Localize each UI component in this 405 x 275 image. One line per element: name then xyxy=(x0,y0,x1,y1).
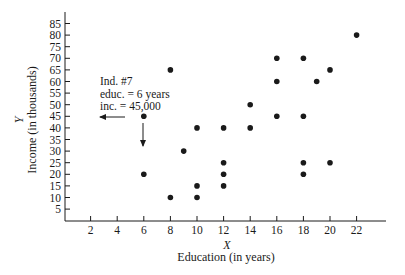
y-tick-label: 15 xyxy=(50,180,62,192)
y-tick-label: 25 xyxy=(50,157,62,169)
data-point xyxy=(274,114,280,120)
x-axis-title: Education (in years) xyxy=(177,250,274,264)
y-tick-label: 30 xyxy=(50,145,62,157)
data-point xyxy=(221,160,227,166)
y-variable-label: Y xyxy=(12,115,26,123)
x-tick-label: 18 xyxy=(298,224,310,236)
data-point xyxy=(327,67,333,73)
y-tick-label: 75 xyxy=(50,41,62,53)
data-point xyxy=(221,125,227,131)
x-tick-label: 20 xyxy=(324,224,336,236)
data-point xyxy=(181,148,187,154)
x-tick-label: 12 xyxy=(218,224,230,236)
y-tick-label: 70 xyxy=(50,52,62,64)
y-tick-label: 60 xyxy=(50,76,62,88)
data-point xyxy=(194,125,200,131)
y-tick-label: 55 xyxy=(50,87,62,99)
y-tick-label: 20 xyxy=(50,168,62,180)
y-tick-label: 5 xyxy=(55,203,61,215)
data-point xyxy=(301,114,307,120)
data-point xyxy=(141,172,147,178)
data-point xyxy=(314,79,320,85)
x-tick-label: 4 xyxy=(114,224,120,236)
x-tick-label: 22 xyxy=(351,224,363,236)
y-tick-label: 80 xyxy=(50,29,62,41)
x-axis-ticks: 246810121416182022 xyxy=(88,216,363,236)
x-tick-label: 8 xyxy=(168,224,174,236)
x-tick-label: 6 xyxy=(141,224,147,236)
data-point xyxy=(274,56,280,62)
annotation-line-3: inc. = 45,000 xyxy=(100,100,161,113)
y-tick-label: 85 xyxy=(50,18,62,30)
y-axis-title: Income (in thousands) xyxy=(25,66,39,173)
data-point xyxy=(327,160,333,166)
y-tick-label: 50 xyxy=(50,99,62,111)
data-point xyxy=(194,195,200,201)
x-tick-label: 10 xyxy=(191,224,203,236)
data-point xyxy=(301,56,307,62)
data-point xyxy=(247,102,253,108)
y-tick-label: 10 xyxy=(50,192,62,204)
y-axis: 510152025303540455055606570758085 xyxy=(50,12,71,221)
y-tick-label: 65 xyxy=(50,64,62,76)
annotation-ind-7: Ind. #7 educ. = 6 years inc. = 45,000 xyxy=(100,75,170,146)
x-tick-label: 2 xyxy=(88,224,94,236)
data-point xyxy=(168,195,174,201)
x-tick-label: 14 xyxy=(244,224,256,236)
data-point xyxy=(141,114,147,120)
data-point xyxy=(301,160,307,166)
x-tick-label: 16 xyxy=(271,224,283,236)
data-points xyxy=(141,32,359,200)
y-tick-label: 40 xyxy=(50,122,62,134)
data-point xyxy=(301,172,307,178)
data-point xyxy=(221,183,227,189)
data-point xyxy=(247,125,253,131)
scatter-plot: 510152025303540455055606570758085 246810… xyxy=(0,0,405,275)
annotation-line-1: Ind. #7 xyxy=(100,75,133,87)
data-point xyxy=(194,183,200,189)
data-point xyxy=(354,32,360,38)
data-point xyxy=(221,172,227,178)
x-axis: 246810121416182022 xyxy=(65,216,386,236)
data-point xyxy=(274,79,280,85)
y-tick-label: 45 xyxy=(50,110,62,122)
y-axis-ticks: 510152025303540455055606570758085 xyxy=(50,18,71,216)
y-tick-label: 35 xyxy=(50,134,62,146)
data-point xyxy=(168,67,174,73)
